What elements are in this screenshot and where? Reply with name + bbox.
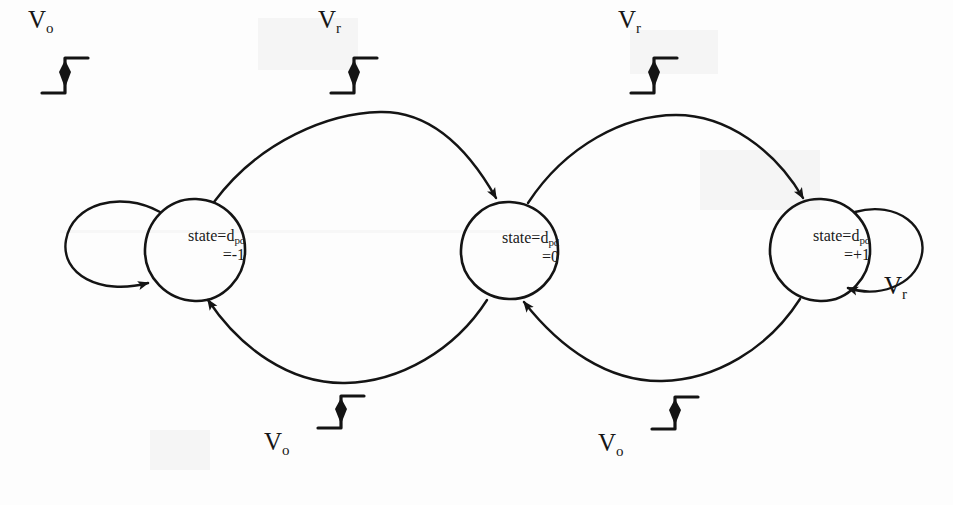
- edge-label-bottom-right: Vo: [598, 429, 624, 460]
- step-arrow-bottom-left: [335, 398, 347, 424]
- step-arrow-top-mid: [348, 60, 360, 88]
- step-arrow-bottom-right: [669, 399, 681, 425]
- state-circle-plus-one: [770, 199, 870, 301]
- step-arrow-top-right: [648, 60, 660, 88]
- step-arrow-top-left: [59, 60, 71, 88]
- diagram-canvas: state=dpd =-1 state=dpd =0 state=dpd =+1…: [0, 0, 953, 505]
- edge-label-top-mid: Vr: [318, 6, 341, 37]
- state-circle-zero: [461, 202, 558, 299]
- arc-zero-to-plus-one: [528, 115, 803, 203]
- state-circle-minus-one: [145, 199, 245, 301]
- diagram-graphics: [0, 0, 953, 505]
- edge-label-bottom-left: Vo: [264, 428, 290, 459]
- edge-label-top-left: Vo: [28, 6, 54, 37]
- arc-zero-to-minus-one: [208, 300, 487, 383]
- edge-label-top-right: Vr: [618, 6, 641, 37]
- arc-minus-one-to-zero: [214, 112, 496, 202]
- arc-plus-one-to-zero: [524, 299, 800, 381]
- edge-label-right-loop: Vr: [884, 272, 907, 303]
